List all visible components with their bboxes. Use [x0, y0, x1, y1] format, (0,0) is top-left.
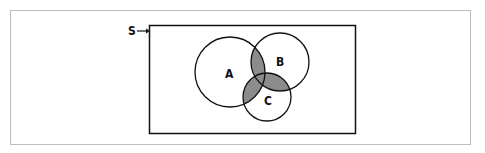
- set-c-label: C: [264, 94, 272, 108]
- venn-diagram: A B C S: [0, 0, 485, 153]
- universe-label: S: [128, 24, 136, 38]
- arrow-right-icon: [137, 29, 150, 34]
- set-a-label: A: [225, 67, 234, 81]
- set-b-label: B: [276, 55, 284, 69]
